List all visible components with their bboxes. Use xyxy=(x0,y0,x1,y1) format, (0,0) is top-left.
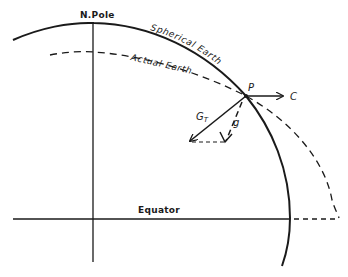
diagram-canvas: N.Pole Spherical Earth Actual Earth P C … xyxy=(0,0,348,277)
equator-label: Equator xyxy=(138,205,180,215)
vector-g-arrowhead xyxy=(220,132,232,142)
gravitation-gt-label: GT xyxy=(196,111,209,124)
actual-earth-label: Actual Earth xyxy=(129,52,194,76)
centrifugal-c-label: C xyxy=(290,91,297,102)
earth-shape-diagram: N.Pole Spherical Earth Actual Earth P C … xyxy=(0,0,348,277)
gravity-g-label: g xyxy=(233,117,239,128)
point-p-label: P xyxy=(248,82,255,93)
north-pole-label: N.Pole xyxy=(80,10,115,20)
